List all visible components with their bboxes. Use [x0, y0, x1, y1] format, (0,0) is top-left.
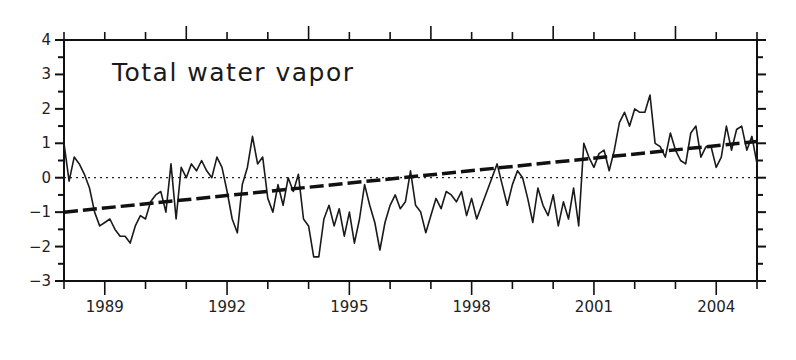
y-tick-label: 0 — [41, 169, 51, 187]
y-tick-label: 3 — [41, 65, 51, 83]
y-tick-label: −2 — [29, 238, 51, 256]
y-tick-label: −3 — [29, 272, 51, 290]
y-tick-label: 4 — [41, 31, 51, 49]
x-tick-label: 1992 — [208, 298, 246, 316]
x-tick-label: 1998 — [453, 298, 491, 316]
trend-line — [64, 142, 757, 213]
x-tick-label: 2001 — [575, 298, 613, 316]
y-tick-label: 1 — [41, 134, 51, 152]
y-tick-label: 2 — [41, 100, 51, 118]
data-lines — [64, 95, 757, 257]
x-tick-label: 1995 — [330, 298, 368, 316]
tick-labels: −3−2−101234198919921995199820012004 — [29, 31, 735, 316]
plot-axes — [64, 40, 757, 281]
x-tick-label: 1989 — [86, 298, 124, 316]
line-chart: −3−2−101234198919921995199820012004 — [0, 0, 796, 360]
plot-frame — [64, 40, 757, 281]
y-tick-label: −1 — [29, 203, 51, 221]
x-tick-label: 2004 — [697, 298, 735, 316]
axis-ticks — [55, 26, 766, 295]
